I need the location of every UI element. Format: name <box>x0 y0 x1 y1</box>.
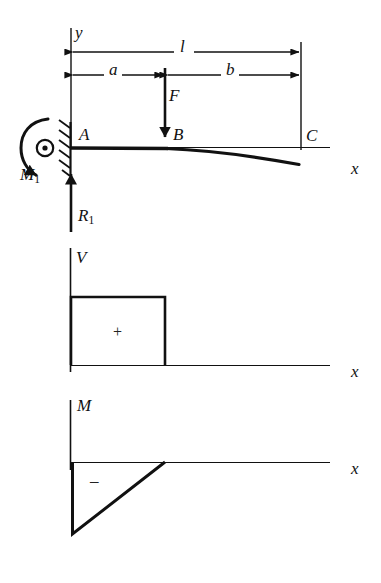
dimension-label-b: b <box>226 61 235 78</box>
reaction-label-m1: M1 <box>20 166 40 186</box>
dimension-label-a: a <box>109 61 118 78</box>
reaction-label-m1-subscript: 1 <box>34 173 40 186</box>
dimension-label-l: l <box>180 38 185 55</box>
point-label-c: C <box>306 127 317 144</box>
reaction-label-r1: R1 <box>78 207 94 227</box>
moment-sign-label-minus: – <box>90 472 99 489</box>
axis-label-x-shear: x <box>351 363 359 380</box>
shear-force-diagram <box>70 248 330 372</box>
reaction-label-r1-base: R <box>78 206 88 225</box>
axis-label-y: y <box>75 24 83 41</box>
axis-label-x-moment: x <box>351 460 359 477</box>
bending-moment-diagram <box>70 400 330 534</box>
load-label-f: F <box>169 87 179 104</box>
deflection-curve <box>166 149 299 165</box>
axis-label-x-beam: x <box>351 160 359 177</box>
point-label-a: A <box>79 126 89 143</box>
reaction-label-m1-base: M <box>20 165 34 184</box>
fixed-support-wall <box>59 120 71 176</box>
axis-label-m: M <box>77 397 91 414</box>
shear-sign-label-plus: + <box>113 324 122 340</box>
point-label-b: B <box>173 126 183 143</box>
moment-plot-triangle <box>73 462 166 534</box>
axis-label-v: V <box>76 249 86 266</box>
beam-member <box>70 148 168 149</box>
reaction-label-r1-subscript: 1 <box>88 214 94 227</box>
engineering-beam-figure <box>0 0 381 583</box>
